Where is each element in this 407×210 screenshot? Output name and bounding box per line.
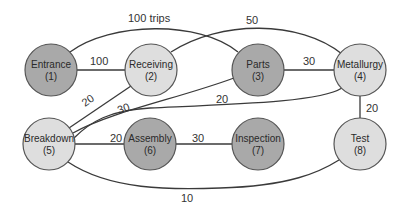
node-name: Inspection xyxy=(235,133,281,144)
node-name: Metallurgy xyxy=(337,59,383,70)
edge-breakdown-test xyxy=(68,160,339,189)
edge-label: 30 xyxy=(303,55,315,67)
node-number: (8) xyxy=(354,145,366,156)
edge-label: 20 xyxy=(110,132,122,144)
node-breakdown: Breakdown (5) xyxy=(23,118,75,170)
edge-label: 100 trips xyxy=(128,12,171,24)
node-assembly: Assembly (6) xyxy=(124,118,176,170)
edge-label: 10 xyxy=(181,192,193,204)
node-number: (5) xyxy=(43,145,55,156)
node-parts: Parts (3) xyxy=(232,44,284,96)
node-receiving: Receiving (2) xyxy=(125,44,177,96)
edge-labels: 100 100 trips 50 30 20 30 20 20 30 20 10 xyxy=(79,12,378,204)
edge-label: 100 xyxy=(90,55,108,67)
edge-label: 20 xyxy=(366,102,378,114)
node-name: Receiving xyxy=(129,59,173,70)
node-name: Entrance xyxy=(31,59,71,70)
flow-diagram: 100 100 trips 50 30 20 30 20 20 30 20 10… xyxy=(0,0,407,210)
edge-label: 50 xyxy=(246,14,258,26)
node-number: (7) xyxy=(252,145,264,156)
edge-label: 30 xyxy=(192,132,204,144)
edge-metallurgy-breakdown xyxy=(74,88,342,138)
edge-label: 20 xyxy=(216,93,228,105)
node-name: Breakdown xyxy=(24,133,74,144)
edge-label: 20 xyxy=(79,92,96,109)
node-metallurgy: Metallurgy (4) xyxy=(334,44,386,96)
node-name: Parts xyxy=(246,59,269,70)
node-number: (2) xyxy=(145,71,157,82)
edges xyxy=(68,28,360,189)
node-test: Test (8) xyxy=(334,118,386,170)
node-number: (4) xyxy=(354,71,366,82)
node-name: Test xyxy=(351,133,370,144)
edge-label: 30 xyxy=(116,100,132,115)
node-name: Assembly xyxy=(128,133,171,144)
node-number: (3) xyxy=(252,71,264,82)
node-inspection: Inspection (7) xyxy=(232,118,284,170)
node-entrance: Entrance (1) xyxy=(25,44,77,96)
node-number: (6) xyxy=(144,145,156,156)
node-number: (1) xyxy=(45,71,57,82)
